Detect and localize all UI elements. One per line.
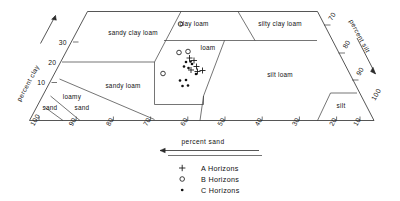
clay-tick-label-10: 10 bbox=[37, 79, 45, 86]
legend-label-c: C Horizons bbox=[201, 186, 240, 195]
data-point-dot bbox=[189, 60, 192, 63]
data-point-dot bbox=[185, 61, 188, 64]
dot-marker-icon bbox=[181, 189, 184, 192]
data-point-dot bbox=[187, 67, 190, 70]
legend-label-a: A Horizons bbox=[201, 164, 239, 173]
data-point-dot bbox=[185, 79, 188, 82]
region-label-silt: silt bbox=[337, 102, 346, 109]
region-label-silt-loam: silt loam bbox=[267, 71, 293, 78]
legend-label-b: B Horizons bbox=[201, 175, 239, 184]
region-label-silty-clay-loam: silty clay loam bbox=[258, 20, 302, 28]
data-point-dot bbox=[187, 84, 190, 87]
sand-axis-title: percent sand bbox=[182, 138, 225, 146]
region-label-sandy-loam: sandy loam bbox=[105, 82, 140, 90]
data-point-dot bbox=[181, 85, 184, 88]
data-point-dot bbox=[191, 63, 194, 66]
region-label-sand: sand bbox=[43, 104, 58, 111]
soil-texture-diagram: percent clay percent silt percent sand 3… bbox=[0, 0, 400, 201]
region-label-clay-loam: clay loam bbox=[179, 20, 208, 28]
region-label-loamy: loamy bbox=[63, 93, 82, 101]
data-point-dot bbox=[195, 73, 198, 76]
clay-tick-label-30: 30 bbox=[59, 39, 67, 46]
data-point-dot bbox=[183, 65, 186, 68]
region-label-sandy-clay-loam: sandy clay loam bbox=[108, 29, 158, 37]
region-label-loam: loam bbox=[201, 44, 216, 51]
data-point-dot bbox=[179, 79, 182, 82]
region-label-loamy-sand: sand bbox=[75, 104, 90, 111]
clay-tick-label-20: 20 bbox=[48, 59, 56, 66]
canvas-background bbox=[0, 0, 400, 201]
diagram-canvas: percent clay percent silt percent sand 3… bbox=[0, 0, 400, 201]
